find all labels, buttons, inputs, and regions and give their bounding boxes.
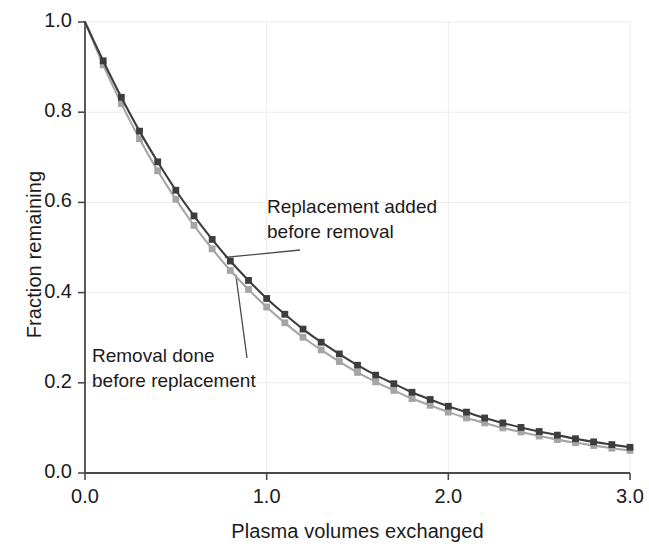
chart-canvas — [0, 0, 649, 556]
y-axis-title: Fraction remaining — [23, 125, 46, 385]
annotation-removal-done: Removal done before replacement — [92, 343, 256, 393]
x-tick-label: 0.0 — [50, 485, 120, 508]
annotation-line-1: Replacement added — [267, 194, 437, 219]
axis-lines — [85, 22, 630, 473]
annotation-line-1: Removal done — [92, 343, 256, 368]
y-tick-label: 0.8 — [16, 99, 72, 122]
x-tick-label: 2.0 — [413, 485, 483, 508]
annotation-replacement-added: Replacement added before removal — [267, 194, 437, 244]
y-tick-label: 0.2 — [16, 370, 72, 393]
gridlines — [85, 22, 630, 473]
y-tick-label: 0.6 — [16, 189, 72, 212]
x-axis-title: Plasma volumes exchanged — [85, 520, 630, 543]
chart-figure: Fraction remaining Plasma volumes exchan… — [0, 0, 649, 556]
y-tick-label: 0.0 — [16, 460, 72, 483]
y-tick-label: 0.4 — [16, 280, 72, 303]
tick-marks — [78, 22, 630, 480]
x-tick-label: 3.0 — [595, 485, 649, 508]
y-tick-label: 1.0 — [16, 9, 72, 32]
annotation-line-2: before removal — [267, 219, 437, 244]
x-tick-label: 1.0 — [232, 485, 302, 508]
annotation-line-2: before replacement — [92, 368, 256, 393]
